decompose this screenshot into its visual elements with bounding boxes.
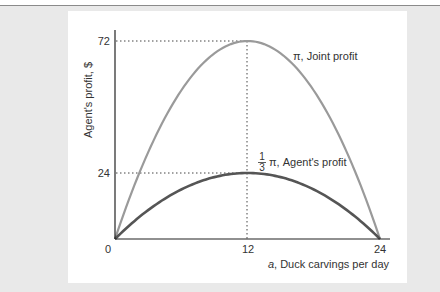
joint-profit-label: π, Joint profit [293, 50, 357, 62]
x-axis-label: a, Duck carvings per day [268, 258, 390, 270]
x-tick-0: 0 [105, 243, 111, 255]
y-tick-72: 72 [98, 35, 110, 47]
agent-profit-label: π, Agent's profit [269, 156, 347, 168]
x-tick-12: 12 [242, 243, 254, 255]
agent-frac-den: 3 [259, 162, 265, 173]
agent-frac-num: 1 [259, 151, 265, 162]
x-tick-24: 24 [374, 243, 386, 255]
chart: 72 24 0 12 24 Agent's profit, $ a, Duck … [0, 0, 440, 292]
y-tick-24: 24 [98, 167, 110, 179]
y-axis-label: Agent's profit, $ [82, 62, 94, 138]
